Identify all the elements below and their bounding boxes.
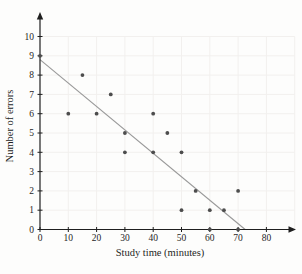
data-point [222,208,226,212]
data-point [151,112,155,116]
y-tick-label: 6 [29,109,34,119]
y-tick-label: 7 [29,90,34,100]
trend-line [40,60,245,230]
y-tick-label: 4 [29,148,34,158]
data-point [66,112,70,116]
y-tick-label: 9 [29,51,34,61]
y-axis-title: Number of errors [4,71,18,181]
data-point [123,131,127,135]
scatter-chart-figure: 01020304050607080012345678910 Study time… [0,0,302,274]
data-point [180,150,184,154]
data-point [109,93,113,97]
data-point [236,228,240,232]
data-point [208,228,212,232]
x-tick-label: 30 [120,233,130,243]
y-tick-label: 5 [29,128,34,138]
x-axis-title: Study time (minutes) [116,247,205,258]
y-tick-label: 0 [29,225,34,235]
data-point [151,150,155,154]
y-tick-label: 3 [29,167,34,177]
data-point [123,150,127,154]
data-point [165,131,169,135]
data-point [95,112,99,116]
data-point [38,54,42,58]
data-point [81,73,85,77]
y-tick-label: 8 [29,70,34,80]
x-tick-label: 50 [177,233,187,243]
y-tick-label: 2 [29,186,34,196]
data-point [194,189,198,193]
x-tick-label: 80 [262,233,272,243]
data-point [180,208,184,212]
x-tick-label: 70 [233,233,243,243]
data-point [208,208,212,212]
x-tick-label: 20 [92,233,102,243]
y-tick-label: 1 [29,205,34,215]
x-tick-label: 60 [205,233,215,243]
x-tick-label: 40 [148,233,158,243]
y-tick-label: 10 [25,32,35,42]
x-tick-label: 10 [64,233,74,243]
data-point [236,189,240,193]
scatter-plot-canvas: 01020304050607080012345678910 [0,0,302,274]
x-tick-label: 0 [38,233,43,243]
y-axis-arrow-icon [37,12,43,20]
